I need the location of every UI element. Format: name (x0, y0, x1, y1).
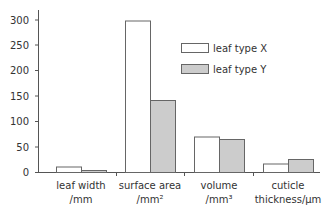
svg-text:300: 300 (10, 15, 29, 26)
bar-chart: 0 50 100 150 200 250 300 leaf width /mm … (0, 0, 329, 212)
bar-volume-y (220, 140, 245, 173)
svg-text:/mm³: /mm³ (206, 194, 233, 205)
svg-text:50: 50 (16, 142, 29, 153)
y-ticks (35, 20, 38, 173)
svg-text:100: 100 (10, 116, 29, 127)
svg-text:/mm²: /mm² (137, 194, 164, 205)
bar-leaf-width-x (57, 167, 82, 173)
bar-leaf-width-y (82, 171, 107, 173)
svg-text:leaf type Y: leaf type Y (213, 64, 267, 75)
svg-text:leaf type X: leaf type X (213, 43, 267, 54)
svg-text:0: 0 (23, 167, 29, 178)
bar-cuticle-y (289, 160, 314, 173)
svg-text:leaf width: leaf width (56, 180, 105, 191)
bar-volume-x (195, 137, 220, 173)
svg-text:volume: volume (200, 180, 237, 191)
bar-surface-area-y (151, 101, 176, 173)
legend-swatch-x (182, 44, 209, 53)
svg-text:150: 150 (10, 91, 29, 102)
svg-text:cuticle: cuticle (272, 180, 305, 191)
bar-surface-area-x (126, 21, 151, 173)
svg-text:200: 200 (10, 65, 29, 76)
svg-text:/mm: /mm (70, 194, 93, 205)
y-tick-labels: 0 50 100 150 200 250 300 (10, 15, 29, 179)
x-category-labels: leaf width /mm surface area /mm² volume … (56, 180, 321, 205)
legend-swatch-y (182, 65, 209, 74)
bar-cuticle-x (264, 164, 289, 173)
legend: leaf type X leaf type Y (182, 43, 268, 75)
svg-text:250: 250 (10, 40, 29, 51)
svg-text:surface area: surface area (119, 180, 181, 191)
svg-text:thickness/µm: thickness/µm (255, 194, 322, 205)
